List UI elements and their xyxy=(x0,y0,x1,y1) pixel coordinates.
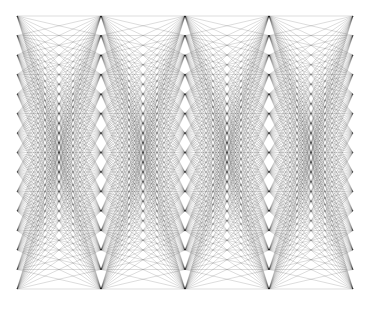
edge-group xyxy=(17,16,353,289)
graph-diagram xyxy=(0,0,367,318)
graph-edges xyxy=(0,0,367,318)
